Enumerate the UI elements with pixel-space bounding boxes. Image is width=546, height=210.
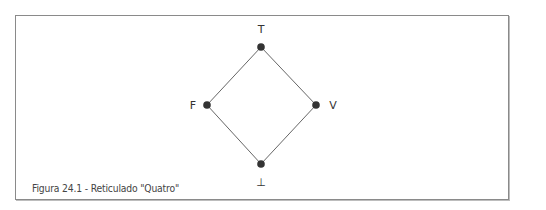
node-top	[257, 43, 265, 51]
lattice-diagram: TFV⊥	[0, 0, 546, 210]
node-F	[203, 101, 211, 109]
node-label-F: F	[190, 99, 196, 112]
node-label-V: V	[329, 99, 337, 112]
edge-top-F	[207, 47, 261, 105]
node-label-bottom: ⊥	[256, 176, 266, 189]
node-label-top: T	[257, 23, 265, 36]
lattice-edges	[207, 47, 316, 164]
figure-caption: Figura 24.1 - Reticulado "Quatro"	[32, 182, 179, 194]
node-bottom	[257, 160, 265, 168]
lattice-nodes	[203, 43, 320, 168]
edge-top-V	[261, 47, 316, 105]
edge-V-bottom	[261, 105, 316, 164]
node-V	[312, 101, 320, 109]
edge-F-bottom	[207, 105, 261, 164]
